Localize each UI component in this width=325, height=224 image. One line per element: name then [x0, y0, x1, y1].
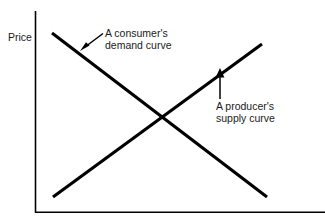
- demand-arrow-icon: [80, 34, 103, 52]
- supply-demand-figure: Price A consumer's demand curve A produc…: [0, 0, 325, 224]
- axes-group: [35, 11, 325, 213]
- y-axis-title: Price: [8, 31, 32, 43]
- supply-annotation-line1: A producer's: [216, 100, 274, 112]
- demand-annotation-line1: A consumer's: [105, 27, 168, 39]
- chart-canvas: Price A consumer's demand curve A produc…: [0, 0, 325, 224]
- demand-annotation-line2: demand curve: [105, 39, 172, 51]
- supply-annotation-line2: supply curve: [216, 112, 275, 124]
